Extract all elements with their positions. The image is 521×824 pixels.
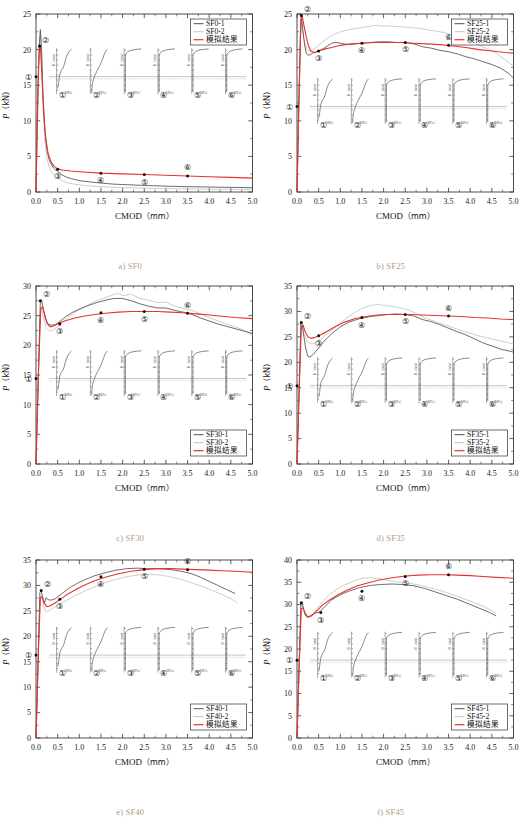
- y-tick-label: 35: [23, 556, 31, 565]
- inset-stage-number: ③: [127, 669, 134, 678]
- inset-diagram: H（mm）σ（MPa）⑤: [447, 78, 470, 130]
- stage-point-label-one: ①: [25, 651, 32, 660]
- inset-y-axis-label: H（mm）: [345, 82, 350, 96]
- panel-caption: f) SF45: [261, 807, 521, 817]
- inset-stage-number: ⑤: [194, 91, 201, 100]
- x-tick-label: 2.0: [378, 197, 388, 206]
- x-tick-label: 3.5: [443, 197, 453, 206]
- x-tick-label: 2.0: [378, 743, 388, 752]
- y-axis-title: P（kN）: [262, 633, 272, 666]
- inset-stage-number: ①: [59, 91, 66, 100]
- y-tick-label: 10: [284, 409, 292, 418]
- y-tick-label: 20: [284, 645, 292, 654]
- inset-diagram: H（mm）σ（MPa）④: [152, 627, 175, 679]
- x-tick-label: 4.5: [486, 197, 496, 206]
- x-tick-label: 4.0: [465, 743, 475, 752]
- inset-diagram: H（mm）σ（MPa）⑥: [220, 48, 243, 100]
- inset-y-axis-label: H（mm）: [186, 354, 191, 368]
- legend: SF40-1SF40-2模拟结果: [191, 704, 247, 730]
- x-tick-label: 1.0: [74, 743, 84, 752]
- legend: SF0-1SF0-2模拟结果: [191, 19, 247, 45]
- legend-label: 模拟结果: [467, 34, 499, 44]
- inset-diagram: H（mm）σ（MPa）②: [345, 357, 368, 409]
- y-tick-label: 10: [284, 689, 292, 698]
- x-tick-label: 5.0: [248, 469, 258, 478]
- inset-diagram: H（mm）σ（MPa）⑤: [186, 627, 209, 679]
- plot-area-sf40: 0.00.51.01.52.02.53.03.54.04.55.00510152…: [0, 546, 261, 778]
- inset-stage-number: ⑤: [194, 393, 201, 402]
- legend: SF25-1SF25-2模拟结果: [451, 19, 507, 45]
- y-axis-title: P（kN）: [1, 359, 11, 392]
- x-tick-label: 4.5: [226, 197, 236, 206]
- x-tick-label: 1.5: [356, 197, 366, 206]
- stage-point-label-one: ①: [25, 375, 32, 384]
- inset-y-axis-label: H（mm）: [480, 636, 485, 650]
- x-tick-label: 0.5: [53, 743, 63, 752]
- x-tick-label: 3.0: [161, 743, 171, 752]
- inset-stage-number: ③: [127, 393, 134, 402]
- inset-stage-number: ①: [320, 121, 327, 130]
- inset-stage-number: ⑥: [489, 121, 496, 130]
- x-tick-label: 2.5: [400, 743, 410, 752]
- x-tick-label: 2.0: [118, 469, 128, 478]
- y-tick-label: 25: [23, 10, 31, 19]
- legend-label: 模拟结果: [206, 719, 238, 729]
- x-axis-title: CMOD（mm）: [115, 757, 174, 767]
- inset-diagram: H（mm）σ（MPa）②: [85, 627, 108, 679]
- x-tick-label: 4.5: [226, 469, 236, 478]
- plot-svg: 0.00.51.01.52.02.53.03.54.04.55.00510152…: [0, 546, 261, 778]
- inset-y-axis-label: H（mm）: [379, 82, 384, 96]
- inset-stage-number: ④: [421, 121, 428, 130]
- x-tick-label: 0.5: [313, 743, 323, 752]
- x-tick-label: 0.0: [292, 469, 302, 478]
- x-axis-title: CMOD（mm）: [375, 757, 434, 767]
- inset-diagram: H（mm）σ（MPa）④: [152, 350, 175, 402]
- x-tick-label: 4.0: [204, 197, 214, 206]
- x-tick-label: 1.5: [356, 469, 366, 478]
- x-tick-label: 0.0: [292, 197, 302, 206]
- inset-y-axis-label: H（mm）: [119, 354, 124, 368]
- y-tick-label: 25: [23, 312, 31, 321]
- inset-stage-number: ③: [127, 91, 134, 100]
- chart-panel-sf40: 0.00.51.01.52.02.53.03.54.04.55.00510152…: [0, 546, 261, 821]
- plot-svg: 0.00.51.01.52.02.53.03.54.04.55.00510152…: [0, 272, 261, 504]
- inset-y-axis-label: H（mm）: [413, 82, 418, 96]
- inset-y-axis-label: H（mm）: [51, 354, 56, 368]
- inset-stage-number: ②: [93, 91, 100, 100]
- inset-stage-number: ②: [353, 400, 360, 409]
- x-tick-label: 5.0: [508, 469, 518, 478]
- stage-point-label: ⑥: [184, 557, 191, 566]
- inset-diagram: H（mm）σ（MPa）④: [413, 632, 436, 684]
- chart-panel-sf35: 0.00.51.01.52.02.53.03.54.04.55.00510152…: [261, 272, 521, 547]
- inset-stage-number: ⑥: [489, 400, 496, 409]
- inset-y-axis-label: H（mm）: [413, 636, 418, 650]
- stage-point-label: ⑤: [141, 178, 148, 187]
- inset-diagram: H（mm）σ（MPa）③: [379, 78, 402, 130]
- inset-stage-number: ①: [320, 400, 327, 409]
- x-tick-label: 1.0: [335, 197, 345, 206]
- stage-point-label: ②: [303, 592, 310, 601]
- inset-y-axis-label: H（mm）: [152, 631, 157, 645]
- inset-y-axis-label: H（mm）: [85, 354, 90, 368]
- inset-diagram: H（mm）σ（MPa）①: [311, 632, 334, 684]
- y-tick-label: 30: [284, 600, 292, 609]
- inset-stress-diagrams: H（mm）σ（MPa）①H（mm）σ（MPa）②H（mm）σ（MPa）③H（mm…: [49, 48, 246, 100]
- y-tick-label: 0: [27, 188, 31, 197]
- inset-stage-number: ④: [160, 91, 167, 100]
- inset-stage-number: ③: [387, 121, 394, 130]
- inset-stage-number: ⑤: [455, 121, 462, 130]
- inset-y-axis-label: H（mm）: [413, 361, 418, 375]
- inset-diagram: H（mm）σ（MPa）⑤: [186, 48, 209, 100]
- y-tick-label: 10: [23, 683, 31, 692]
- chart-panel-sf0: 0.00.51.01.52.02.53.03.54.04.55.00510152…: [0, 0, 261, 275]
- stage-point-label: ⑥: [184, 163, 191, 172]
- inset-y-axis-label: H（mm）: [480, 361, 485, 375]
- stage-point-label: ⑥: [445, 562, 452, 571]
- plot-svg: 0.00.51.01.52.02.53.03.54.04.55.00510152…: [261, 546, 521, 778]
- y-axis-title: P（kN）: [1, 633, 11, 666]
- x-tick-label: 4.5: [226, 743, 236, 752]
- plot-area-sf30: 0.00.51.01.52.02.53.03.54.04.55.00510152…: [0, 272, 261, 504]
- plot-area-sf45: 0.00.51.01.52.02.53.03.54.04.55.00510152…: [261, 546, 521, 778]
- inset-diagram: H（mm）σ（MPa）⑤: [447, 632, 470, 684]
- y-tick-label: 30: [23, 282, 31, 291]
